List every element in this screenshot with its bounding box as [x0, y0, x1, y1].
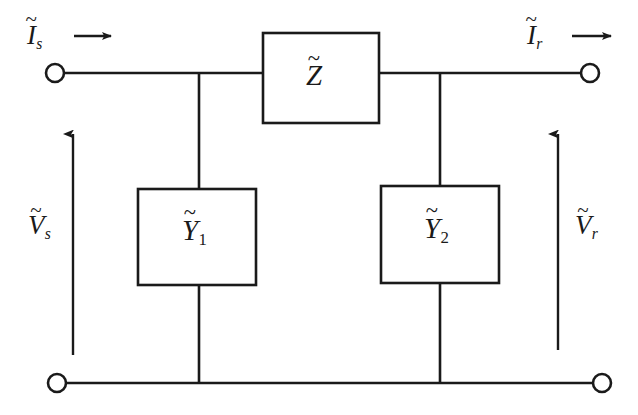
tilde-accent: ~ — [30, 200, 41, 221]
label-shunt-admittance-1-symbol: ~ Y — [182, 216, 198, 245]
label-shunt-admittance-1-subscript: 1 — [198, 230, 206, 249]
terminal-receiving-top — [581, 64, 599, 82]
label-current-receiving-subscript: r — [536, 35, 542, 52]
terminal-sending-top — [46, 64, 64, 82]
label-shunt-admittance-1: ~ Y 1 — [182, 216, 207, 245]
tilde-accent: ~ — [308, 48, 320, 71]
tilde-accent: ~ — [577, 200, 588, 221]
tilde-accent: ~ — [184, 202, 196, 225]
label-voltage-receiving-subscript: r — [592, 225, 598, 242]
label-series-impedance: ~ Z — [306, 61, 322, 90]
label-voltage-receiving: ~ V r — [575, 212, 598, 239]
terminal-receiving-bottom — [593, 374, 611, 392]
label-series-impedance-symbol: ~ Z — [306, 61, 322, 90]
label-current-receiving-symbol: ~ I — [527, 22, 536, 49]
tilde-accent: ~ — [526, 9, 537, 30]
label-current-sending: ~ I s — [27, 22, 42, 49]
label-voltage-sending: ~ V s — [28, 212, 51, 239]
label-shunt-admittance-2-subscript: 2 — [440, 228, 448, 247]
label-shunt-admittance-2: ~ Y 2 — [424, 214, 449, 243]
label-voltage-sending-symbol: ~ V — [28, 212, 45, 239]
circuit-diagram: ~ I s ~ I r ~ V s ~ V r ~ Z ~ Y 1 — [0, 0, 638, 415]
label-current-sending-symbol: ~ I — [27, 22, 36, 49]
label-shunt-admittance-2-symbol: ~ Y — [424, 214, 440, 243]
tilde-accent: ~ — [426, 200, 438, 223]
tilde-accent: ~ — [26, 9, 37, 30]
label-current-sending-subscript: s — [36, 35, 42, 52]
terminal-sending-bottom — [48, 374, 66, 392]
label-current-receiving: ~ I r — [527, 22, 542, 49]
label-voltage-sending-subscript: s — [45, 225, 51, 242]
label-voltage-receiving-symbol: ~ V — [575, 212, 592, 239]
